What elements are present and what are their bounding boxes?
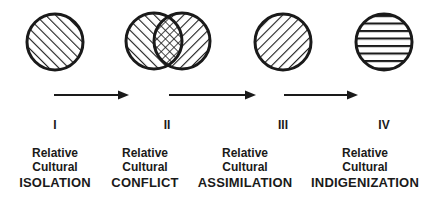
stage-3-circle bbox=[255, 14, 311, 70]
stage-1-line2: Cultural bbox=[19, 160, 91, 174]
stage-4-line2: Cultural bbox=[311, 160, 419, 174]
stage-4-label: Relative Cultural INDIGENIZATION bbox=[311, 146, 419, 191]
stage-3-line2: Cultural bbox=[198, 160, 293, 174]
stage-1-circle bbox=[27, 14, 83, 70]
stage-1-numeral: I bbox=[53, 119, 56, 131]
stage-3-label: Relative Cultural ASSIMILATION bbox=[198, 146, 293, 191]
stage-2-term: CONFLICT bbox=[111, 174, 178, 191]
stage-4-term: INDIGENIZATION bbox=[311, 174, 419, 191]
stage-1-term: ISOLATION bbox=[19, 174, 91, 191]
stage-2-overlapping-circles bbox=[126, 13, 210, 69]
stage-1-label: Relative Cultural ISOLATION bbox=[19, 146, 91, 191]
stage-4-circle bbox=[356, 14, 412, 70]
arrow-1-to-2 bbox=[54, 91, 129, 100]
stage-1-line1: Relative bbox=[19, 146, 91, 160]
stage-4-numeral: IV bbox=[378, 119, 389, 131]
stage-2-line2: Cultural bbox=[111, 160, 178, 174]
stage-3-term: ASSIMILATION bbox=[198, 174, 293, 191]
stage-4-line1: Relative bbox=[311, 146, 419, 160]
stage-2-numeral: II bbox=[164, 119, 171, 131]
stage-3-line1: Relative bbox=[198, 146, 293, 160]
stage-2-label: Relative Cultural CONFLICT bbox=[111, 146, 178, 191]
stage-3-numeral: III bbox=[278, 119, 288, 131]
stage-2-line1: Relative bbox=[111, 146, 178, 160]
arrow-2-to-3 bbox=[169, 91, 256, 100]
arrow-3-to-4 bbox=[284, 91, 358, 100]
